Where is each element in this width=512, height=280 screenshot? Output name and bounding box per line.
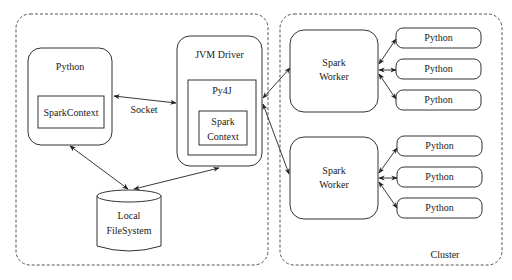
cluster-label: Cluster: [431, 249, 461, 260]
python-driver-node: Python SparkContext: [28, 48, 112, 145]
jvm-driver-node: JVM Driver Py4J Spark Context: [177, 36, 262, 166]
python-process-label: Python: [425, 171, 453, 182]
jvm-fs-arrow: [134, 168, 219, 189]
spark-worker-2: Spark Worker: [290, 137, 378, 219]
jvm-context-label: Context: [207, 131, 239, 142]
python-driver-label: Python: [56, 61, 84, 72]
jvm-worker2-arrow: [263, 104, 289, 174]
spark-worker-1: Spark Worker: [290, 30, 378, 112]
socket-arrow: [114, 96, 176, 103]
py4j-label: Py4J: [212, 85, 232, 96]
worker2-python3-arrow: [379, 182, 397, 208]
worker1-python-processes: Python Python Python: [396, 28, 481, 110]
worker1-python1-arrow: [379, 39, 396, 64]
python-process-label: Python: [425, 140, 453, 151]
python-process-label: Python: [424, 63, 452, 74]
jvm-driver-label: JVM Driver: [195, 49, 244, 60]
sparkcontext-label: SparkContext: [44, 107, 99, 118]
worker2-spark-label: Spark: [322, 165, 345, 176]
jvm-spark-label: Spark: [211, 116, 234, 127]
jvm-worker1-arrow: [263, 68, 290, 98]
python-process-label: Python: [424, 94, 452, 105]
worker2-python1-arrow: [379, 148, 397, 173]
python-process-label: Python: [424, 32, 452, 43]
python-process-label: Python: [425, 202, 453, 213]
worker2-worker-label: Worker: [319, 179, 349, 190]
worker1-spark-label: Spark: [322, 57, 345, 68]
worker1-python3-arrow: [379, 74, 396, 99]
worker2-python-processes: Python Python Python: [397, 136, 482, 218]
python-fs-arrow: [70, 146, 128, 189]
local-filesystem-node: Local FileSystem: [97, 190, 161, 251]
worker1-worker-label: Worker: [319, 71, 349, 82]
filesystem-label: FileSystem: [106, 225, 151, 236]
socket-label: Socket: [130, 104, 157, 115]
local-label: Local: [118, 210, 141, 221]
spark-architecture-diagram: Cluster Python SparkContext JVM Driver P…: [0, 0, 512, 280]
